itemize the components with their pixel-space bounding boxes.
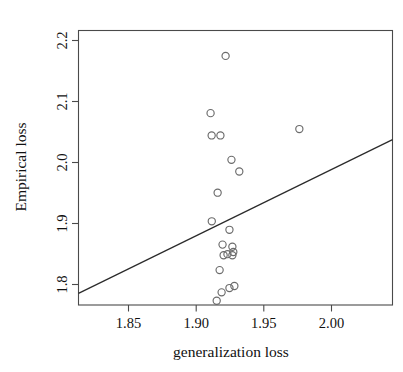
y-tick-label: 2.0 [54,153,70,171]
data-point [217,132,224,139]
x-tick-label: 2.00 [319,315,344,331]
data-point [207,110,214,117]
x-axis-ticks [129,305,332,312]
data-point [218,289,225,296]
x-tick-label: 1.95 [251,315,276,331]
data-points-layer [207,52,303,304]
plot-frame [79,31,393,306]
y-tick-label: 1.9 [54,214,70,232]
data-point [208,218,215,225]
x-tick-label: 1.85 [116,315,141,331]
data-point [216,266,223,273]
y-tick-labels: 2.2 2.1 2.0 1.9 1.8 [54,31,70,293]
data-point [219,241,226,248]
data-point [228,156,235,163]
scatter-plot-figure: 2.2 2.1 2.0 1.9 1.8 1.85 1.90 1.95 2.00 … [0,0,403,372]
y-axis-ticks [72,41,79,285]
data-point [208,132,215,139]
data-point [214,189,221,196]
data-point [226,226,233,233]
regression-fit-line [79,140,393,294]
plot-canvas: 2.2 2.1 2.0 1.9 1.8 1.85 1.90 1.95 2.00 … [0,0,403,372]
y-tick-label: 2.2 [54,31,70,49]
x-tick-label: 1.90 [184,315,209,331]
x-axis-label: generalization loss [173,343,289,360]
data-point [213,297,220,304]
data-point [236,168,243,175]
y-axis-label: Empirical loss [12,122,29,211]
y-tick-label: 2.1 [54,92,70,110]
data-point [222,52,229,59]
x-tick-labels: 1.85 1.90 1.95 2.00 [116,315,344,331]
data-point [296,125,303,132]
y-tick-label: 1.8 [54,275,70,293]
